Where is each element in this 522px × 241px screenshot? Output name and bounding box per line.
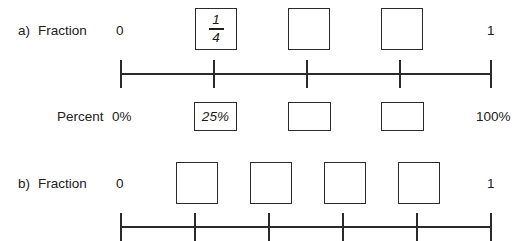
fraction-denominator: 4	[210, 31, 222, 45]
row-b-start-label: 0	[116, 177, 124, 191]
fraction-glyph: 1 4	[209, 13, 224, 46]
answer-box-fraction-a-2[interactable]	[288, 8, 330, 50]
answer-box-fraction-b-1[interactable]	[176, 162, 218, 204]
row-percent-start-label: 0%	[112, 110, 132, 124]
number-line-b-tick-3	[342, 213, 344, 241]
answer-box-percent-3[interactable]	[381, 102, 424, 131]
row-percent-label: Percent	[57, 110, 104, 124]
answer-box-fraction-b-3[interactable]	[324, 162, 366, 204]
worksheet-canvas: a) Fraction 0 1 1 4 Percent 0% 100% 25% …	[0, 0, 522, 241]
answer-box-fraction-b-4[interactable]	[398, 162, 440, 204]
number-line-a-tick-4	[490, 60, 492, 88]
number-line-b-tick-5	[490, 213, 492, 241]
answer-box-fraction-a-1[interactable]: 1 4	[195, 8, 237, 50]
number-line-b-tick-1	[194, 213, 196, 241]
row-b-marker: b)	[18, 177, 30, 191]
row-a-marker: a)	[18, 24, 30, 38]
row-a-end-label: 1	[487, 24, 495, 38]
number-line-b-tick-0	[120, 213, 122, 241]
fraction-numerator: 1	[210, 13, 222, 27]
number-line-a-tick-2	[306, 60, 308, 88]
answer-box-percent-1-value: 25%	[202, 109, 230, 124]
row-percent-end-label: 100%	[476, 110, 511, 124]
answer-box-percent-1[interactable]: 25%	[194, 102, 237, 131]
answer-box-fraction-a-3[interactable]	[381, 8, 423, 50]
answer-box-fraction-b-2[interactable]	[250, 162, 292, 204]
number-line-b-tick-2	[268, 213, 270, 241]
number-line-a-tick-3	[399, 60, 401, 88]
answer-box-percent-2[interactable]	[288, 102, 331, 131]
number-line-a-tick-1	[213, 60, 215, 88]
number-line-b-tick-4	[416, 213, 418, 241]
number-line-a-tick-0	[120, 60, 122, 88]
row-b-end-label: 1	[487, 177, 495, 191]
row-a-start-label: 0	[116, 24, 124, 38]
number-line-b-axis	[120, 226, 492, 228]
row-a-label: Fraction	[38, 24, 87, 38]
row-b-label: Fraction	[38, 177, 87, 191]
